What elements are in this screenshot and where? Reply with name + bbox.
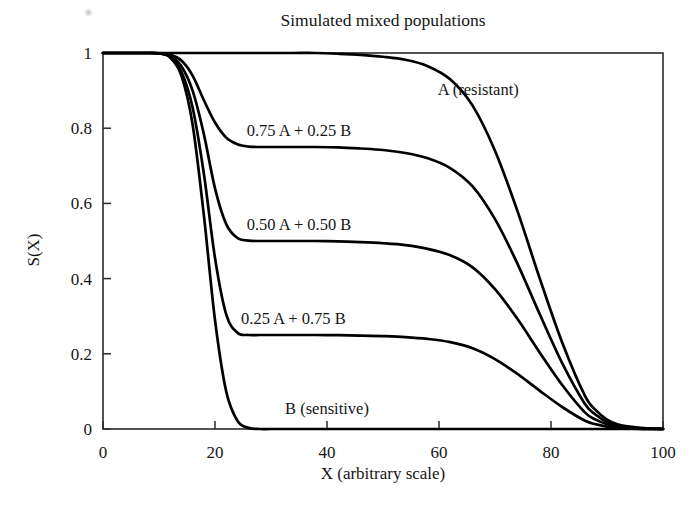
x-axis-label: X (arbitrary scale) — [321, 464, 446, 483]
y-tick-label: 0.8 — [71, 119, 92, 138]
curve-a-resistant — [103, 53, 663, 429]
y-axis-label: S(X) — [24, 233, 43, 266]
y-axis-ticks: 00.20.40.60.81 — [71, 44, 111, 439]
x-tick-label: 0 — [99, 443, 108, 462]
x-tick-label: 60 — [431, 443, 448, 462]
curve-label-a-resistant: A (resistant) — [438, 80, 519, 99]
curve-label-0-75-a-0-25-b: 0.75 A + 0.25 B — [247, 121, 352, 140]
y-tick-label: 1 — [84, 44, 93, 63]
x-axis-ticks: 020406080100 — [99, 421, 676, 462]
curve-label-group: A (resistant)0.75 A + 0.25 B0.50 A + 0.5… — [241, 80, 519, 419]
x-tick-label: 40 — [319, 443, 336, 462]
chart-svg: Simulated mixed populations 00.20.40.60.… — [0, 0, 698, 511]
x-tick-label: 20 — [207, 443, 224, 462]
x-tick-label: 100 — [650, 443, 676, 462]
y-tick-label: 0.6 — [71, 194, 92, 213]
y-tick-label: 0.4 — [71, 270, 93, 289]
curve-0-25-a-0-75-b — [103, 53, 663, 429]
curve-b-sensitive — [103, 53, 663, 429]
chart-title: Simulated mixed populations — [280, 10, 485, 30]
curve-label-0-25-a-0-75-b: 0.25 A + 0.75 B — [241, 309, 346, 328]
chart-figure: Simulated mixed populations 00.20.40.60.… — [0, 0, 698, 511]
curve-label-b-sensitive: B (sensitive) — [285, 399, 369, 418]
plot-frame — [103, 53, 663, 429]
curve-group — [103, 53, 663, 429]
curve-0-75-a-0-25-b — [103, 53, 663, 429]
y-tick-label: 0 — [84, 420, 93, 439]
y-tick-label: 0.2 — [71, 345, 92, 364]
curve-0-50-a-0-50-b — [103, 53, 663, 429]
curve-label-0-50-a-0-50-b: 0.50 A + 0.50 B — [247, 215, 352, 234]
x-tick-label: 80 — [543, 443, 560, 462]
